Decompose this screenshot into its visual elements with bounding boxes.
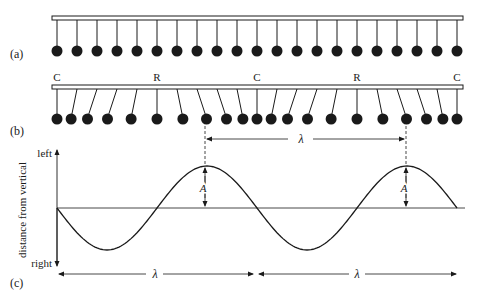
panel-c: (c) left right distance from vertical A … xyxy=(10,147,465,290)
panel-a: (a) xyxy=(10,16,463,61)
panel-b: (b) CRCRC λ xyxy=(10,71,463,166)
pendulum-bob xyxy=(152,114,163,125)
pendulum-bob xyxy=(82,114,93,125)
pendulum-string xyxy=(287,89,297,118)
pendulum-string xyxy=(197,89,207,118)
pendulum xyxy=(352,89,363,125)
pendulum xyxy=(437,89,448,125)
pendulum xyxy=(272,20,283,57)
pendulum-bob xyxy=(326,114,337,125)
pendulum xyxy=(237,89,248,125)
pendulum-bob xyxy=(412,46,423,57)
pendulum-string xyxy=(417,89,427,118)
pendulum-bob xyxy=(112,46,123,57)
pendulum-bob xyxy=(452,46,463,57)
pendulum xyxy=(126,89,137,125)
pendulum xyxy=(152,20,163,57)
pendulum-bob xyxy=(332,46,343,57)
pendulum-bob xyxy=(52,46,63,57)
pendulum xyxy=(412,20,423,57)
pendulum-bob xyxy=(66,114,77,125)
pendulum-string xyxy=(307,89,317,118)
pendulum-bob xyxy=(252,114,263,125)
pendulum xyxy=(192,20,203,57)
pendulum-bob xyxy=(432,46,443,57)
panel-a-label: (a) xyxy=(10,47,23,61)
wavelength-label-c2: λ xyxy=(353,267,359,281)
pendulum-bob xyxy=(126,114,137,125)
pendulum-bob xyxy=(221,114,232,125)
pendulum xyxy=(392,20,403,57)
amplitude-label-1: A xyxy=(199,182,207,194)
pendulum xyxy=(252,89,263,125)
pendulum xyxy=(102,89,117,125)
pendulum-string xyxy=(87,89,97,118)
pendulum-string xyxy=(397,89,407,118)
pendulum-bob xyxy=(52,114,63,125)
pendulum-string xyxy=(107,89,117,118)
pendulum-string xyxy=(217,89,227,118)
pendulum xyxy=(52,20,63,57)
pendulum-bob xyxy=(72,46,83,57)
pendulum-bob xyxy=(266,114,277,125)
pendulum-bob xyxy=(452,114,463,125)
pendulum xyxy=(252,20,263,57)
pendulum xyxy=(302,89,317,125)
support-bar-a xyxy=(52,16,463,20)
pendulum xyxy=(152,89,163,125)
pendulum xyxy=(352,20,363,57)
pendulum xyxy=(452,20,463,57)
pendulum-bob xyxy=(212,46,223,57)
pendulum-bob xyxy=(152,46,163,57)
pendulum-bob xyxy=(312,46,323,57)
pendulum-row-a xyxy=(52,20,463,57)
pendulum-bob xyxy=(437,114,448,125)
pendulum-bob xyxy=(132,46,143,57)
pendulum-bob xyxy=(92,46,103,57)
pendulum-bob xyxy=(177,114,188,125)
pendulum-bob xyxy=(232,46,243,57)
pendulum-bob xyxy=(352,46,363,57)
pendulum xyxy=(177,89,188,125)
pendulum-bob xyxy=(302,114,313,125)
pendulum-row-b xyxy=(52,89,463,125)
y-axis-top-label: left xyxy=(37,147,52,159)
pendulum xyxy=(72,20,83,57)
pendulum-bob xyxy=(272,46,283,57)
rarefaction-marker: R xyxy=(153,71,161,83)
pendulum xyxy=(312,20,323,57)
pendulum xyxy=(432,20,443,57)
pendulum xyxy=(266,89,277,125)
pendulum xyxy=(397,89,412,125)
compression-marker: C xyxy=(453,71,460,83)
wavelength-label-b: λ xyxy=(297,132,303,146)
pendulum xyxy=(212,20,223,57)
pendulum-bob xyxy=(192,46,203,57)
pendulum xyxy=(66,89,77,125)
pendulum-bob xyxy=(172,46,183,57)
compression-marker: C xyxy=(53,71,60,83)
compression-rarefaction-markers: CRCRC xyxy=(53,71,460,83)
pendulum xyxy=(417,89,432,125)
pendulum-wave-diagram: (a) (b) CRCRC λ (c) left right distance … xyxy=(0,0,485,298)
pendulum xyxy=(452,89,463,125)
pendulum xyxy=(172,20,183,57)
pendulum xyxy=(232,20,243,57)
pendulum-bob xyxy=(252,46,263,57)
pendulum-bob xyxy=(201,114,212,125)
pendulum-bob xyxy=(377,114,388,125)
panel-b-label: (b) xyxy=(10,124,24,138)
pendulum-bob xyxy=(282,114,293,125)
pendulum-bob xyxy=(392,46,403,57)
pendulum xyxy=(292,20,303,57)
compression-marker: C xyxy=(253,71,260,83)
pendulum xyxy=(92,20,103,57)
wavelength-label-c1: λ xyxy=(151,267,157,281)
pendulum-bob xyxy=(401,114,412,125)
panel-c-label: (c) xyxy=(10,276,23,290)
pendulum-bob xyxy=(237,114,248,125)
pendulum xyxy=(82,89,97,125)
y-axis-title: distance from vertical xyxy=(16,162,28,258)
rarefaction-marker: R xyxy=(353,71,361,83)
pendulum xyxy=(326,89,337,125)
